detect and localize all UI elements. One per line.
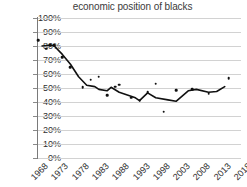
x-axis-label: 2018 <box>232 161 247 182</box>
data-point <box>175 89 178 92</box>
x-axis-label: 1973 <box>49 161 70 182</box>
x-axis-label: 1988 <box>110 161 131 182</box>
y-axis-tick <box>33 32 37 33</box>
data-point <box>61 56 64 59</box>
data-point <box>118 83 121 86</box>
y-axis-tick <box>33 130 37 131</box>
data-point <box>98 76 101 79</box>
y-axis-tick <box>33 158 37 159</box>
x-axis-label: 2008 <box>191 161 212 182</box>
x-axis-label: 1978 <box>69 161 90 182</box>
y-axis-tick <box>33 144 37 145</box>
trend-line <box>38 18 241 158</box>
data-point <box>207 92 210 95</box>
data-point <box>49 44 52 47</box>
data-point <box>45 48 48 51</box>
data-point <box>146 91 149 94</box>
x-axis-label: 1968 <box>29 161 50 182</box>
gridline <box>38 158 241 159</box>
data-point <box>138 99 141 102</box>
y-axis-tick <box>33 74 37 75</box>
data-point <box>130 97 133 100</box>
y-axis-tick <box>33 60 37 61</box>
data-point <box>37 39 40 42</box>
data-point <box>81 86 84 89</box>
data-point <box>154 83 157 86</box>
chart-title: economic position of blacks <box>0 1 247 12</box>
data-point <box>106 94 109 97</box>
data-point <box>53 44 56 47</box>
plot-area <box>38 18 241 158</box>
y-axis-tick <box>33 116 37 117</box>
y-axis-tick <box>33 18 37 19</box>
x-axis-label: 2013 <box>212 161 233 182</box>
chart-container: economic position of blacks 0%10%20%30%4… <box>0 0 247 187</box>
x-axis-label: 1998 <box>151 161 172 182</box>
data-point <box>114 85 117 88</box>
y-axis-tick <box>33 46 37 47</box>
data-point <box>69 66 72 69</box>
data-point <box>89 78 92 81</box>
x-axis-label: 2003 <box>171 161 192 182</box>
y-axis-tick <box>33 102 37 103</box>
y-axis-tick <box>33 88 37 89</box>
x-axis-label: 1983 <box>90 161 111 182</box>
x-axis-label: 1993 <box>130 161 151 182</box>
data-point <box>163 111 166 114</box>
data-point <box>191 88 194 91</box>
data-point <box>228 77 231 80</box>
